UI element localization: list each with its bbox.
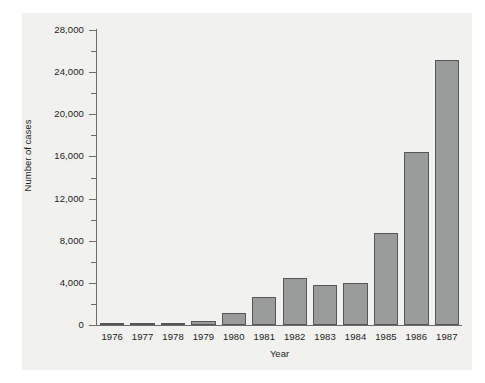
bar-1976 [100, 323, 124, 325]
y-axis-tick-label-slot: 0 [22, 320, 84, 330]
x-axis-tick-label-1981: 1981 [249, 331, 279, 342]
figure-bar-chart-number-of-cases-by-year: 04,0008,00012,00016,00020,00024,00028,00… [0, 0, 485, 383]
y-axis-major-tick [89, 325, 97, 326]
x-axis-tick-label-1986: 1986 [401, 331, 431, 342]
y-axis-tick-label-slot: 4,000 [22, 278, 84, 288]
x-axis-tick-label-1985: 1985 [371, 331, 401, 342]
x-axis-line [96, 325, 462, 326]
x-axis-tick-label-1978: 1978 [158, 331, 188, 342]
x-axis-tick-label-1980: 1980 [219, 331, 249, 342]
bar-1983 [313, 285, 337, 325]
y-axis-title: Number of cases [22, 106, 33, 206]
bar-1981 [252, 297, 276, 325]
bar-1987 [435, 60, 459, 326]
y-axis-tick-label: 0 [22, 320, 84, 330]
x-axis-tick-label-1979: 1979 [188, 331, 218, 342]
y-axis-tick-label-slot: 28,000 [22, 25, 84, 35]
bar-1979 [191, 321, 215, 325]
y-axis-major-tick [89, 30, 97, 31]
bar-1986 [404, 152, 428, 325]
y-axis-major-tick [89, 156, 97, 157]
x-axis-tick-label-1987: 1987 [432, 331, 462, 342]
bar-1977 [130, 323, 154, 325]
x-axis-tick-label-1976: 1976 [97, 331, 127, 342]
x-axis-title: Year [97, 348, 462, 359]
bar-1978 [161, 323, 185, 325]
y-axis-tick-label-slot: 8,000 [22, 236, 84, 246]
x-axis-tick-label-1984: 1984 [340, 331, 370, 342]
y-axis-tick-label: 4,000 [22, 278, 84, 288]
x-axis-tick-label-1977: 1977 [127, 331, 157, 342]
y-axis-major-tick [89, 72, 97, 73]
y-axis-tick-label: 8,000 [22, 236, 84, 246]
bar-1985 [374, 233, 398, 325]
y-axis-tick-label-slot: 24,000 [22, 67, 84, 77]
y-axis-major-tick [89, 199, 97, 200]
y-axis-major-tick [89, 241, 97, 242]
y-axis-major-tick [89, 114, 97, 115]
y-axis-major-tick [89, 283, 97, 284]
y-axis-tick-label: 24,000 [22, 67, 84, 77]
bar-1982 [283, 278, 307, 325]
bar-1980 [222, 313, 246, 325]
plot-area [97, 30, 462, 325]
bar-1984 [343, 283, 367, 325]
y-axis-tick-label: 28,000 [22, 25, 84, 35]
x-axis-tick-label-1982: 1982 [280, 331, 310, 342]
x-axis-tick-label-1983: 1983 [310, 331, 340, 342]
